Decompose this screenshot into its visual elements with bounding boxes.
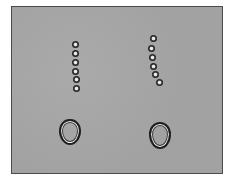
right-chain-bead [152,71,159,78]
right-chain-bead [156,79,163,86]
right-chain-bead [148,45,155,52]
left-chain-bead [72,50,79,57]
left-chain-bead [73,85,80,92]
right-chain-bead [149,54,156,61]
left-chain-bead [72,59,79,66]
image-frame [11,6,223,174]
right-ring [149,122,171,149]
left-chain-bead [73,76,80,83]
left-chain-bead [72,68,79,75]
left-chain-bead [72,41,79,48]
right-chain-bead [150,35,157,42]
right-chain-bead [150,63,157,70]
